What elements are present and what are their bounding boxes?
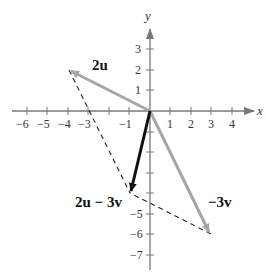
vector-2u-minus-3v: [131, 111, 150, 191]
label-2u-minus-3v: 2u − 3v: [75, 194, 122, 210]
svg-text:3: 3: [135, 42, 141, 56]
svg-text:−5: −5: [37, 117, 50, 131]
vector-labels: 2u −3v 2u − 3v: [75, 57, 232, 210]
svg-text:2: 2: [135, 63, 141, 77]
svg-text:1: 1: [135, 83, 141, 97]
label-2u: 2u: [92, 57, 108, 73]
y-axis-label: y: [143, 8, 151, 23]
svg-text:−5: −5: [130, 207, 143, 221]
vector-neg3v: [150, 111, 209, 232]
dashed-line-from-2u: [69, 70, 130, 193]
svg-text:−1: −1: [119, 117, 132, 131]
svg-text:2: 2: [188, 117, 194, 131]
svg-text:−6: −6: [130, 227, 143, 241]
x-axis-label: x: [256, 103, 263, 118]
svg-text:−6: −6: [16, 117, 29, 131]
svg-text:1: 1: [167, 117, 173, 131]
svg-text:−3: −3: [78, 117, 91, 131]
svg-text:−4: −4: [58, 117, 71, 131]
vector-diagram: x y −6 −5 −4 −3 −1 1 2 3 4: [0, 0, 266, 277]
svg-text:3: 3: [208, 117, 214, 131]
label-neg3v: −3v: [208, 194, 232, 210]
svg-text:4: 4: [229, 117, 235, 131]
x-tick-labels: −6 −5 −4 −3 −1 1 2 3 4: [16, 117, 235, 131]
svg-text:−7: −7: [130, 248, 143, 262]
